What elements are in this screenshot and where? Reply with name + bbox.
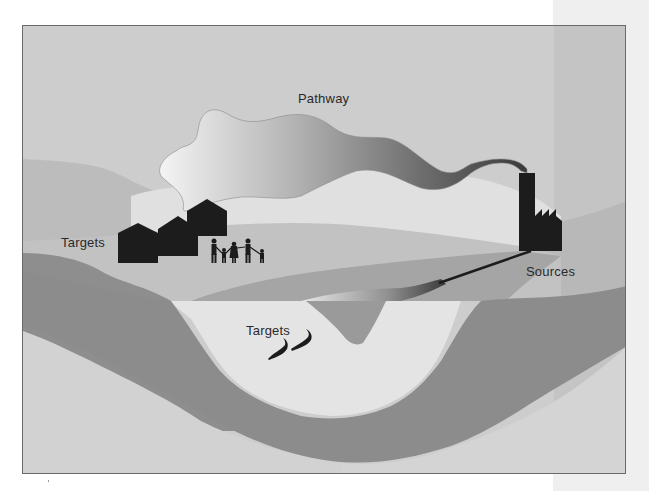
label-targets-land: Targets [61,235,105,250]
diagram-frame: Pathway Targets Sources Targets [22,25,626,474]
label-sources: Sources [526,264,575,279]
label-pathway: Pathway [298,91,349,106]
label-targets-water: Targets [246,323,290,338]
stray-mark [48,480,49,482]
